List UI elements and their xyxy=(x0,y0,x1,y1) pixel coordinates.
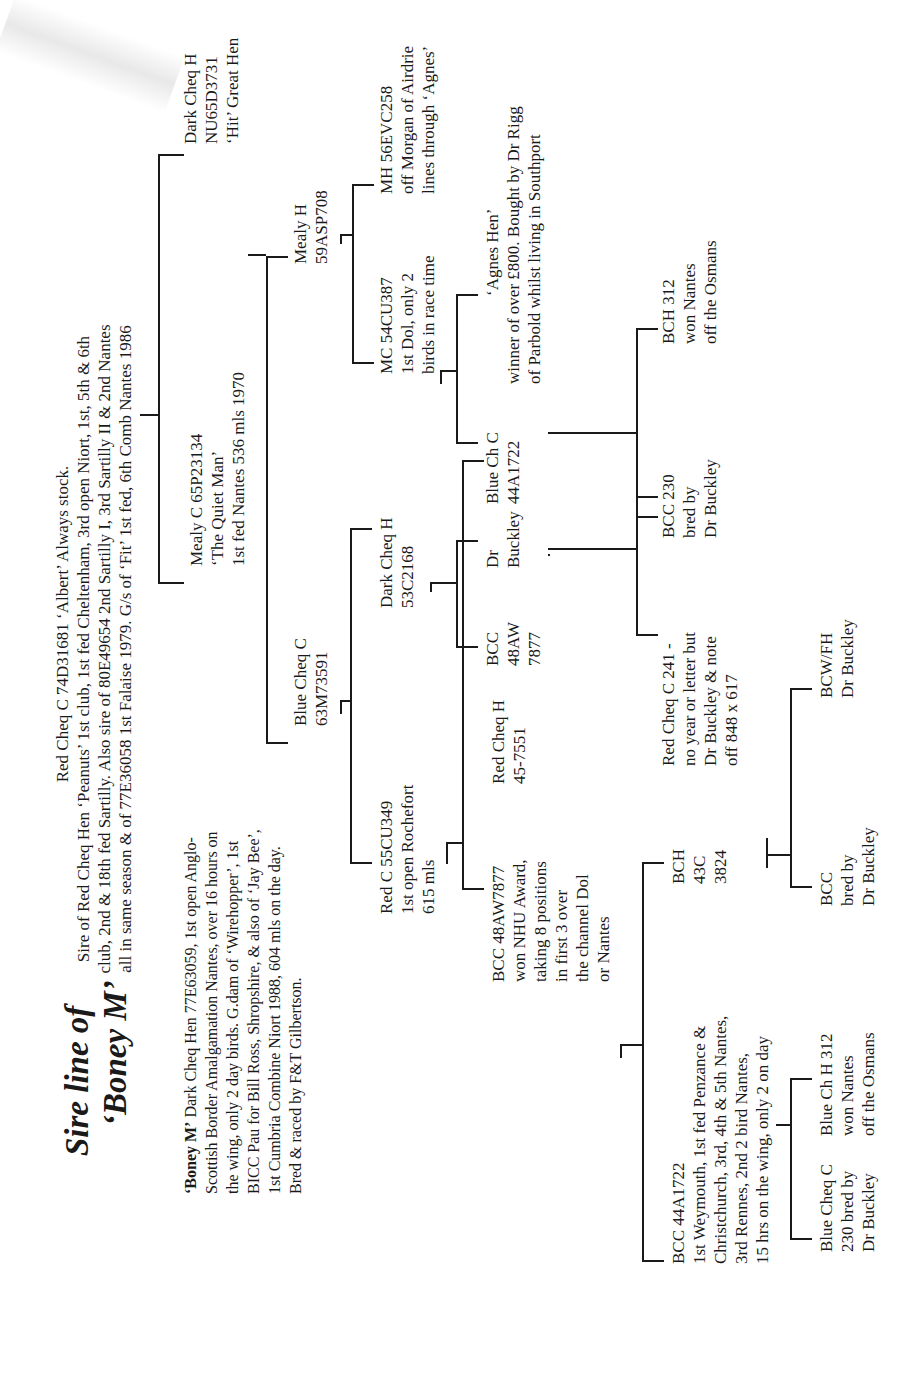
bird-line: Dark Cheq H xyxy=(180,38,201,144)
bird-line: Red C 55CU349 xyxy=(376,785,397,914)
root-line-2: Sire of Red Cheq Hen ‘Peanuts’ 1st club,… xyxy=(73,74,94,1224)
intro-line-6: Bred & raced by F&T Gilbertson. xyxy=(285,829,306,1194)
bird-line: Christchurch, 3rd, 4th & 5th Nantes, xyxy=(710,1016,731,1264)
bird-blue-cheq-c-230: Blue Cheq C 230 bred by Dr Buckley xyxy=(816,1164,879,1252)
bird-line: 7877 xyxy=(524,622,545,666)
bird-line: BCC xyxy=(482,622,503,666)
connector xyxy=(642,862,664,864)
bird-line: taking 8 positions xyxy=(530,859,551,982)
bird-line: birds in race time xyxy=(418,256,439,375)
intro-line-1: Dark Cheq Hen 77E63059, 1st open Anglo- xyxy=(182,837,199,1121)
bird-line: 45-7551 xyxy=(509,700,530,784)
bird-line: Blue Ch H 312 xyxy=(816,1032,837,1136)
bird-bcc-48aw-short: BCC 48AW 7877 xyxy=(482,622,545,666)
bird-line: 615 mls xyxy=(418,785,439,914)
connector xyxy=(430,582,456,584)
bird-line: winner of over £800. Bought by Dr Rigg xyxy=(503,106,524,384)
bird-line: BCW/FH xyxy=(816,619,837,698)
bird-line: Dr Buckley xyxy=(700,459,721,538)
connector xyxy=(548,554,550,556)
bird-line: in first 3 over xyxy=(551,859,572,982)
bird-line: bred by xyxy=(679,459,700,538)
bird-line: 1st open Rochefort xyxy=(397,785,418,914)
bird-line: Blue Cheq C xyxy=(816,1164,837,1252)
bird-line: 59ASP708 xyxy=(311,190,332,264)
connector xyxy=(266,256,288,258)
bird-bch-312: BCH 312 won Nantes off the Osmans xyxy=(658,240,721,344)
bird-line: MC 54CU387 xyxy=(376,256,397,375)
bird-line: 44A1722 xyxy=(503,432,524,504)
bird-line: BCH 312 xyxy=(658,240,679,344)
connector xyxy=(350,862,372,864)
bird-line: BCH xyxy=(668,849,689,884)
bird-red-c-55cu349: Red C 55CU349 1st open Rochefort 615 mls xyxy=(376,785,439,914)
bird-line: BCC 230 xyxy=(658,459,679,538)
connector xyxy=(620,1044,642,1046)
bird-line: 1st Dol, only 2 xyxy=(397,256,418,375)
bird-mh-56evc258: MH 56EVC258 off Morgan of Airdrie lines … xyxy=(376,46,439,194)
connector xyxy=(462,460,464,890)
connector xyxy=(350,528,352,864)
connector xyxy=(790,1078,812,1080)
connector xyxy=(642,1260,664,1262)
bird-line: won Nantes xyxy=(679,240,700,344)
bird-line: Dr Buckley xyxy=(837,619,858,698)
connector xyxy=(456,442,478,444)
bird-line: lines through ‘Agnes’ xyxy=(418,46,439,194)
bird-dark-cheq-h-53c: Dark Cheq H 53C2168 xyxy=(376,517,418,608)
bird-mealy-h: Mealy H 59ASP708 xyxy=(290,190,332,264)
bird-line: ‘Hit’ Great Hen xyxy=(222,38,243,144)
bird-line: 53C2168 xyxy=(397,517,418,608)
intro-bold-name: ‘Boney M’ xyxy=(182,1122,199,1194)
bird-red-cheq-c-241: Red Cheq C 241 - no year or letter but D… xyxy=(658,632,742,766)
bird-line: BCC 48AW7877 xyxy=(488,859,509,982)
connector xyxy=(440,370,456,372)
connector xyxy=(456,646,478,648)
connector xyxy=(462,888,484,890)
bird-line: ‘The Quiet Man’ xyxy=(207,372,228,566)
connector xyxy=(790,688,792,888)
connector xyxy=(790,1078,792,1240)
bird-line: Dr xyxy=(482,511,503,568)
connector xyxy=(340,700,350,702)
connector xyxy=(790,886,812,888)
root-line-1: Red Cheq C 74D31681 ‘Albert’ Always stoc… xyxy=(52,74,73,1224)
connector xyxy=(248,254,266,256)
connector xyxy=(642,862,644,1262)
connector xyxy=(766,838,768,868)
connector xyxy=(790,1238,812,1240)
connector xyxy=(352,362,374,364)
intro-line-4: BICC Pau for Bill Ross, Shropshire, & al… xyxy=(243,829,264,1194)
bird-line: 63M73591 xyxy=(311,638,332,726)
connector xyxy=(636,328,658,330)
connector xyxy=(158,154,160,584)
connector xyxy=(140,414,158,416)
connector xyxy=(440,370,442,384)
bird-line: 3rd Rennes, 2nd 2 bird Nantes, xyxy=(731,1016,752,1264)
bird-line: 43C xyxy=(689,849,710,884)
bird-line: Dr Buckley xyxy=(858,1164,879,1252)
connector xyxy=(456,294,458,444)
bird-bcc-230: BCC 230 bred by Dr Buckley xyxy=(658,459,721,538)
bird-line: bred by xyxy=(837,827,858,906)
connector xyxy=(266,742,288,744)
bird-line: 3824 xyxy=(710,849,731,884)
connector xyxy=(352,184,374,186)
bird-line: off the Osmans xyxy=(700,240,721,344)
connector xyxy=(350,528,372,530)
bird-bcc-44a1722: BCC 44A1722 1st Weymouth, 1st fed Penzan… xyxy=(668,1016,773,1264)
connector xyxy=(766,854,790,856)
bird-dark-cheq-h-hit: Dark Cheq H NU65D3731 ‘Hit’ Great Hen xyxy=(180,38,243,144)
bird-line: 1st fed Nantes 536 mls 1970 xyxy=(228,372,249,566)
bird-line: or Nantes xyxy=(593,859,614,982)
bird-line: 1st Weymouth, 1st fed Penzance & xyxy=(689,1016,710,1264)
intro-paragraph: ‘Boney M’ Dark Cheq Hen 77E63059, 1st op… xyxy=(180,829,306,1194)
connector xyxy=(158,154,184,156)
connector xyxy=(548,432,636,434)
bird-line: 48AW xyxy=(503,622,524,666)
bird-bch-43c: BCH 43C 3824 xyxy=(668,849,731,884)
connector xyxy=(340,234,352,236)
bird-blue-ch-h-312: Blue Ch H 312 won Nantes off the Osmans xyxy=(816,1032,879,1136)
bird-line: 230 bred by xyxy=(837,1164,858,1252)
connector xyxy=(636,328,638,518)
